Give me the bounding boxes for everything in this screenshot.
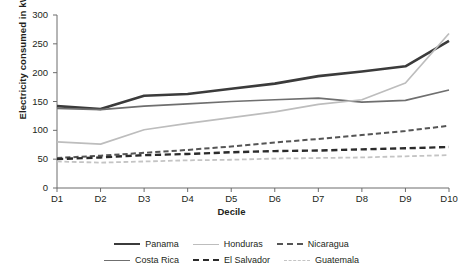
legend-item-nicaragua[interactable]: Nicaragua	[277, 239, 349, 249]
legend-label: Costa Rica	[135, 255, 179, 265]
legend-row: Costa RicaEl SalvadorGuatemala	[0, 252, 463, 268]
legend-item-guatemala[interactable]: Guatemala	[284, 255, 359, 265]
legend-label: Guatemala	[315, 255, 359, 265]
legend-item-costa-rica[interactable]: Costa Rica	[104, 255, 179, 265]
chart-legend: PanamaHondurasNicaragua Costa RicaEl Sal…	[0, 236, 463, 268]
plot-area	[0, 0, 463, 274]
legend-label: El Salvador	[224, 255, 270, 265]
legend-item-el-salvador[interactable]: El Salvador	[193, 255, 270, 265]
series-line-panama	[57, 41, 449, 109]
series-line-honduras	[57, 33, 449, 144]
legend-label: Panama	[145, 239, 179, 249]
series-line-costa-rica	[57, 90, 449, 110]
legend-swatch	[104, 260, 130, 261]
legend-label: Honduras	[224, 239, 263, 249]
legend-swatch	[277, 243, 303, 245]
series-line-nicaragua	[57, 126, 449, 158]
legend-row: PanamaHondurasNicaragua	[0, 236, 463, 252]
legend-swatch	[114, 243, 140, 245]
legend-swatch	[193, 244, 219, 245]
legend-swatch	[193, 259, 219, 261]
legend-item-panama[interactable]: Panama	[114, 239, 179, 249]
legend-label: Nicaragua	[308, 239, 349, 249]
line-chart-figure: Electricity consumed in kWh Decile 05010…	[0, 0, 463, 274]
legend-item-honduras[interactable]: Honduras	[193, 239, 263, 249]
legend-swatch	[284, 260, 310, 261]
